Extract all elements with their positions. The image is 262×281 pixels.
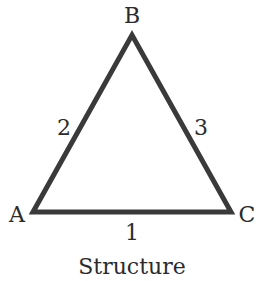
vertex-label-a: A bbox=[8, 202, 26, 227]
edge-label-2: 2 bbox=[57, 115, 71, 140]
vertex-label-b: B bbox=[124, 3, 140, 28]
vertex-label-c: C bbox=[239, 202, 256, 227]
edge-label-3: 3 bbox=[194, 115, 208, 140]
caption: Structure bbox=[78, 254, 185, 279]
edge-label-1: 1 bbox=[125, 220, 139, 245]
triangle-diagram: B A C 2 3 1 Structure bbox=[0, 0, 262, 281]
